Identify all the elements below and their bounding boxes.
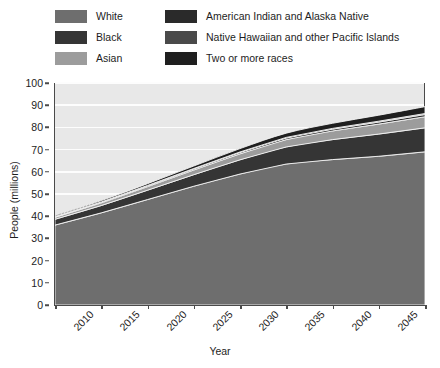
y-axis-tick-mark [45,171,49,173]
y-axis-tick-mark [45,193,49,195]
chart-legend: WhiteBlackAsian American Indian and Alas… [55,8,430,70]
x-axis-tick-label: 2030 [256,308,281,333]
x-axis-tick-mark [101,305,103,309]
x-axis-tick-label: 2040 [348,308,373,333]
x-axis-tick-mark [379,305,381,309]
x-axis-tick-mark [286,305,288,309]
x-axis-tick-label: 2010 [71,308,96,333]
y-axis-tick-label: 60 [31,166,43,178]
stacked-area-series [55,83,425,305]
legend-item[interactable]: Asian [55,50,165,67]
legend-item[interactable]: American Indian and Alaska Native [165,8,430,25]
x-axis-title: Year [0,345,440,357]
legend-item-label: Asian [96,52,122,65]
y-axis-tick-mark [45,127,49,129]
legend-item-label: Black [96,31,122,44]
x-axis-labels: 201020152020202520302035204020452050 [55,306,427,346]
x-axis-tick-mark [425,305,427,309]
plot-area [55,83,425,305]
y-axis-tick-label: 50 [31,188,43,200]
legend-item[interactable]: Two or more races [165,50,430,67]
x-axis-tick-label: 2035 [302,308,327,333]
legend-column-left: WhiteBlackAsian [55,8,165,71]
legend-swatch [55,31,87,44]
y-axis-tick-label: 100 [25,77,43,89]
legend-item-label: Native Hawaiian and other Pacific Island… [206,31,399,44]
legend-item[interactable]: White [55,8,165,25]
legend-swatch [55,10,87,23]
legend-item[interactable]: Native Hawaiian and other Pacific Island… [165,29,430,46]
y-axis-tick-mark [45,282,49,284]
x-axis-tick-mark [333,305,335,309]
legend-swatch [55,52,87,65]
x-axis-tick-mark [240,305,242,309]
y-axis-tick-mark [45,238,49,240]
legend-swatch [165,52,197,65]
legend-item-label: Two or more races [206,52,293,65]
y-axis-title: People (millions) [8,140,20,260]
x-axis-tick-mark [55,305,57,309]
area-band-white [55,152,425,305]
y-axis-tick-label: 0 [37,299,43,311]
y-axis-tick-mark [45,149,49,151]
x-axis-tick-label: 2015 [117,308,142,333]
y-axis-tick-label: 40 [31,210,43,222]
y-axis-tick-label: 30 [31,232,43,244]
legend-item-label: White [96,10,123,23]
legend-swatch [165,31,197,44]
x-axis-tick-label: 2045 [395,308,420,333]
y-axis-tick-label: 80 [31,121,43,133]
legend-swatch [165,10,197,23]
y-axis-tick-label: 10 [31,277,43,289]
x-axis-tick-label: 2025 [210,308,235,333]
y-axis-tick-mark [45,104,49,106]
chart-figure: WhiteBlackAsian American Indian and Alas… [0,0,440,368]
x-axis-tick-mark [148,305,150,309]
x-axis-tick-label: 2020 [163,308,188,333]
legend-column-right: American Indian and Alaska NativeNative … [165,8,430,71]
y-axis-tick-mark [45,260,49,262]
legend-item[interactable]: Black [55,29,165,46]
y-axis-tick-label: 70 [31,144,43,156]
y-axis-line [54,83,56,306]
y-axis-tick-label: 90 [31,99,43,111]
y-axis-tick-mark [45,304,49,306]
x-axis-tick-mark [194,305,196,309]
y-axis-tick-mark [45,215,49,217]
y-axis-tick-mark [45,82,49,84]
legend-item-label: American Indian and Alaska Native [206,10,369,23]
y-axis-tick-label: 20 [31,255,43,267]
